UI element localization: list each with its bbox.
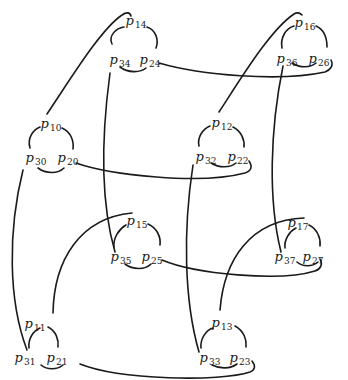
node-label-p35: p35 bbox=[111, 250, 132, 263]
node-label-p34: p34 bbox=[110, 53, 131, 66]
node-label-p16: p16 bbox=[295, 16, 316, 29]
node-label-p36: p36 bbox=[277, 52, 298, 65]
node-label-p12: p12 bbox=[212, 116, 233, 129]
node-label-p17: p17 bbox=[288, 216, 309, 229]
node-label-p31: p31 bbox=[15, 351, 36, 364]
node-label-p37: p37 bbox=[275, 250, 296, 263]
node-label-p33: p33 bbox=[200, 351, 221, 364]
node-label-p10: p10 bbox=[41, 117, 62, 130]
node-label-p13: p13 bbox=[212, 316, 233, 329]
strand-p21-p23 bbox=[80, 361, 254, 378]
node-label-p32: p32 bbox=[196, 150, 217, 163]
node-label-p15: p15 bbox=[127, 214, 148, 227]
strand-p34-p35 bbox=[103, 73, 115, 252]
node-label-p27: p27 bbox=[303, 250, 324, 263]
node-label-p14: p14 bbox=[126, 14, 147, 27]
node-label-p21: p21 bbox=[47, 351, 68, 364]
node-label-p11: p11 bbox=[25, 317, 46, 330]
strand-p20-p22 bbox=[76, 161, 251, 178]
node-label-p23: p23 bbox=[230, 351, 251, 364]
node-label-p26: p26 bbox=[309, 52, 330, 65]
node-label-p20: p20 bbox=[58, 151, 79, 164]
node-label-p24: p24 bbox=[140, 53, 161, 66]
knot-diagram: p14 p34 p24 p16 p36 p26 p10 p30 p20 p12 … bbox=[0, 0, 348, 380]
node-label-p30: p30 bbox=[26, 151, 47, 164]
strand-p24-p26 bbox=[159, 60, 332, 77]
node-label-p25: p25 bbox=[142, 250, 163, 263]
strand-p32-p33 bbox=[186, 165, 199, 352]
node-label-p22: p22 bbox=[228, 150, 249, 163]
